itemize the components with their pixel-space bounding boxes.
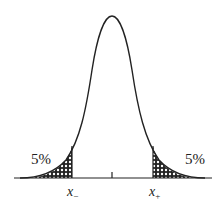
x-plus-label: x+ (149, 185, 160, 199)
x-minus-label: x− (67, 185, 78, 199)
right-tail-percent: 5% (185, 152, 205, 167)
normal-curve-diagram: 5% 5% x− x+ (0, 0, 223, 206)
curve-svg (0, 0, 223, 206)
left-tail-percent: 5% (31, 152, 51, 167)
